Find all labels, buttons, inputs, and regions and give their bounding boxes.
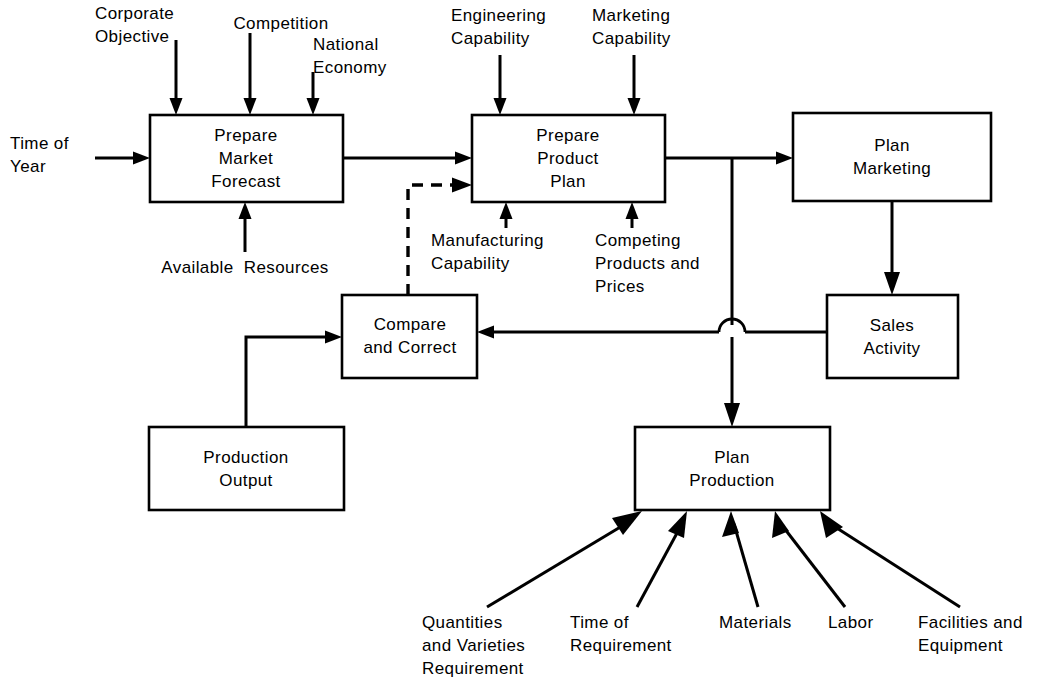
arrow-facilities-and-equipment — [820, 511, 960, 607]
facilities-equipment-line1: Facilities and — [918, 613, 1023, 632]
connector-product-plan-to-plan-marketing — [665, 152, 793, 165]
competing-products-line3: Prices — [595, 277, 645, 296]
time-of-requirement-line2: Requirement — [570, 636, 672, 655]
label-manufacturing-capability: ManufacturingCapability — [431, 229, 544, 275]
plan-marketing-line2: Marketing — [853, 159, 931, 178]
available-resources-line1: Available Resources — [161, 258, 328, 277]
label-facilities-and-equipment: Facilities andEquipment — [918, 611, 1023, 657]
flow-diagram-canvas: PrepareMarketForecast PrepareProductPlan… — [0, 0, 1045, 689]
label-time-of-year: Time ofYear — [10, 132, 69, 178]
label-labor: Labor — [828, 611, 873, 634]
label-compare-and-correct: Compareand Correct — [363, 313, 456, 359]
arrow-materials — [722, 511, 758, 607]
sales-activity-line1: Sales — [870, 316, 915, 335]
compare-and-correct-line1: Compare — [374, 315, 447, 334]
prepare-market-forecast-line1: Prepare — [214, 126, 277, 145]
time-of-year-line1: Time of — [10, 134, 69, 153]
competing-products-line2: Products and — [595, 254, 700, 273]
marketing-capability-line2: Capability — [592, 29, 671, 48]
sales-activity-line2: Activity — [863, 339, 920, 358]
national-economy-line2: Economy — [313, 58, 387, 77]
manufacturing-capability-line2: Capability — [431, 254, 510, 273]
facilities-equipment-line2: Equipment — [918, 636, 1003, 655]
label-corporate-objective: CorporateObjective — [95, 2, 174, 48]
engineering-capability-line2: Capability — [451, 29, 530, 48]
arrow-available-resources — [239, 202, 252, 252]
time-of-year-line2: Year — [10, 157, 46, 176]
label-competing-products-and-prices: CompetingProducts andPrices — [595, 229, 700, 298]
label-marketing-capability: MarketingCapability — [592, 4, 671, 50]
arrow-corporate-objective — [170, 40, 183, 115]
arrow-engineering-capability — [494, 55, 507, 115]
plan-marketing-line1: Plan — [874, 136, 910, 155]
plan-production-line2: Production — [689, 471, 774, 490]
prepare-product-plan-line3: Plan — [550, 172, 586, 191]
arrow-competition — [244, 33, 257, 115]
corporate-objective-line2: Objective — [95, 27, 169, 46]
label-prepare-market-forecast: PrepareMarketForecast — [211, 124, 280, 193]
label-engineering-capability: EngineeringCapability — [451, 4, 546, 50]
compare-and-correct-line2: and Correct — [363, 338, 456, 357]
label-plan-marketing: PlanMarketing — [853, 134, 931, 180]
label-sales-activity: SalesActivity — [863, 314, 920, 360]
competition-line1: Competition — [233, 14, 328, 33]
manufacturing-capability-line1: Manufacturing — [431, 231, 544, 250]
competing-products-line1: Competing — [595, 231, 681, 250]
arrow-time-of-year — [95, 152, 150, 165]
quantities-varieties-line2: and Varieties — [422, 636, 525, 655]
quantities-varieties-line1: Quantities — [422, 613, 503, 632]
label-plan-production: PlanProduction — [689, 446, 774, 492]
national-economy-line1: National — [313, 35, 379, 54]
label-quantities-and-varieties-requirement: Quantitiesand VarietiesRequirement — [422, 611, 525, 680]
engineering-capability-line1: Engineering — [451, 6, 546, 25]
connector-plan-marketing-to-sales-activity — [884, 201, 900, 295]
arrow-competing-products — [626, 202, 639, 228]
label-competition: Competition — [233, 12, 328, 35]
corporate-objective-line1: Corporate — [95, 4, 174, 23]
arrow-manufacturing-capability — [500, 202, 513, 228]
prepare-market-forecast-line2: Market — [219, 149, 273, 168]
label-time-of-requirement: Time ofRequirement — [570, 611, 672, 657]
arrow-marketing-capability — [628, 55, 641, 115]
labor-line1: Labor — [828, 613, 873, 632]
prepare-product-plan-line2: Product — [537, 149, 598, 168]
label-available-resources: Available Resources — [161, 256, 328, 279]
marketing-capability-line1: Marketing — [592, 6, 670, 25]
quantities-varieties-line3: Requirement — [422, 659, 524, 678]
connector-sales-activity-to-compare-correct — [477, 319, 827, 339]
production-output-line2: Output — [219, 471, 272, 490]
plan-production-line1: Plan — [714, 448, 750, 467]
connector-production-output-to-compare-correct — [246, 331, 342, 428]
prepare-product-plan-line1: Prepare — [536, 126, 599, 145]
label-production-output: ProductionOutput — [203, 446, 288, 492]
label-materials: Materials — [719, 611, 792, 634]
production-output-line1: Production — [203, 448, 288, 467]
label-national-economy: NationalEconomy — [313, 33, 387, 79]
time-of-requirement-line1: Time of — [570, 613, 629, 632]
connector-forecast-to-product-plan — [343, 152, 472, 165]
arrow-time-of-requirement — [637, 511, 687, 607]
arrow-quantities-and-varieties-requirement — [487, 511, 642, 607]
label-prepare-product-plan: PrepareProductPlan — [536, 124, 599, 193]
connector-product-plan-to-plan-production — [724, 158, 740, 427]
materials-line1: Materials — [719, 613, 792, 632]
prepare-market-forecast-line3: Forecast — [211, 172, 280, 191]
